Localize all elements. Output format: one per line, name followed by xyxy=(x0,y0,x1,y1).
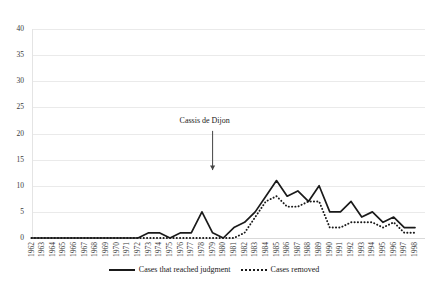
legend-item-judgment: Cases that reached judgment xyxy=(109,266,231,274)
annotation-label-cassis-de-dijon: Cassis de Dijon xyxy=(180,117,230,125)
annotation-arrow-group xyxy=(210,131,215,170)
legend-swatch-dotted-icon xyxy=(241,269,267,271)
legend-label-removed: Cases removed xyxy=(271,266,320,274)
legend-label-judgment: Cases that reached judgment xyxy=(139,266,231,274)
annotation-arrow-head xyxy=(210,166,215,171)
chart-container: 0510152025303540 19621963196419651966196… xyxy=(0,0,428,282)
series-line-judgment xyxy=(32,181,416,238)
chart-legend: Cases that reached judgment Cases remove… xyxy=(0,266,428,274)
series-group xyxy=(32,181,416,238)
legend-item-removed: Cases removed xyxy=(241,266,320,274)
legend-swatch-solid-icon xyxy=(109,269,135,271)
series-line-removed xyxy=(32,196,416,238)
plot-area xyxy=(0,0,428,282)
